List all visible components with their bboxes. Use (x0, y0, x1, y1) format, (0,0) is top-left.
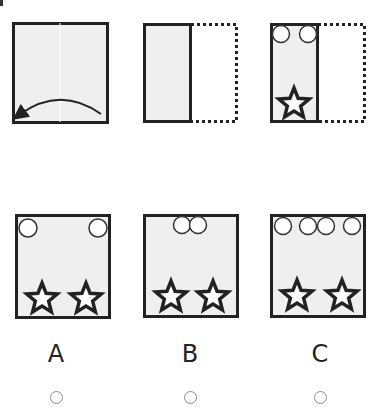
dotted-outline (191, 25, 237, 122)
hole-circle (275, 218, 292, 235)
option-a-figure (17, 216, 110, 318)
option-a-label: A (26, 340, 86, 368)
step-2-folded (145, 25, 237, 122)
hole-circle (89, 219, 107, 237)
option-c-figure (272, 216, 365, 317)
option-b-figure (145, 216, 238, 317)
hole-circle (318, 218, 335, 235)
hole-circle (19, 219, 37, 237)
hole-circle (174, 217, 191, 234)
step-3-punched (272, 25, 365, 122)
hole-circle (344, 218, 361, 235)
hole-circle (273, 26, 290, 43)
step-1-square (14, 23, 108, 123)
option-b-radio[interactable] (184, 391, 197, 404)
option-c-radio[interactable] (314, 391, 327, 404)
option-b-label: B (160, 340, 220, 368)
option-c-label: C (290, 340, 350, 368)
hole-circle (300, 218, 317, 235)
option-a-radio[interactable] (50, 391, 63, 404)
hole-circle (300, 26, 317, 43)
dotted-outline (318, 25, 365, 122)
hole-circle (190, 217, 207, 234)
